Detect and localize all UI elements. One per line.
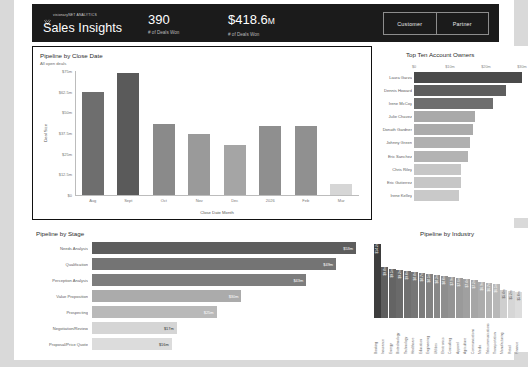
bar[interactable]: $16m: [92, 338, 172, 350]
bar[interactable]: [414, 137, 470, 148]
bar[interactable]: $17m: [92, 322, 177, 334]
bar[interactable]: [414, 190, 459, 201]
bar[interactable]: [414, 124, 473, 135]
bar[interactable]: [224, 145, 246, 195]
bar[interactable]: $7.2m: [471, 280, 478, 318]
list-item[interactable]: Laura Garza: [382, 72, 522, 83]
bar-track: [414, 164, 522, 175]
bar[interactable]: $9.8m: [381, 267, 388, 318]
bar[interactable]: $5.0m: [515, 292, 522, 318]
bar-column[interactable]: $8.5m: [426, 244, 433, 318]
bar[interactable]: $9.0m: [404, 271, 411, 318]
list-item[interactable]: Eric Sanchez: [382, 151, 522, 162]
bar-column[interactable]: $7.6m: [456, 244, 463, 318]
bar[interactable]: [414, 85, 506, 96]
bar-track: [414, 124, 522, 135]
bar-column[interactable]: $8.3m: [434, 244, 441, 318]
bar[interactable]: [414, 72, 522, 83]
bar-column[interactable]: $6.7m: [486, 244, 493, 318]
bar[interactable]: [330, 184, 352, 195]
bar[interactable]: $8.7m: [419, 273, 426, 318]
bar-column[interactable]: Mar: [324, 71, 360, 195]
bar-value-label: $7.4m: [465, 279, 469, 288]
toggle-partner-button[interactable]: Partner: [436, 13, 489, 34]
bar-column[interactable]: Aug: [75, 71, 111, 195]
list-item[interactable]: Julie Chavez: [382, 111, 522, 122]
bar[interactable]: [259, 126, 281, 195]
bar-column[interactable]: $5.2m: [508, 244, 515, 318]
list-item[interactable]: Irene McCoy: [382, 98, 522, 109]
bar-column[interactable]: $6.5m: [493, 244, 500, 318]
bar-value-label: $53m: [343, 246, 353, 251]
list-item[interactable]: Qualification$49m: [34, 258, 356, 270]
bar[interactable]: [117, 73, 139, 195]
bar[interactable]: $5.2m: [508, 291, 515, 318]
list-item[interactable]: Johnny Green: [382, 137, 522, 148]
bar[interactable]: $25m: [92, 306, 217, 318]
bar[interactable]: $14.2m: [374, 244, 381, 318]
bar[interactable]: $53m: [92, 242, 356, 254]
bar[interactable]: $8.5m: [426, 274, 433, 318]
bar-column[interactable]: $6.9m: [478, 244, 485, 318]
bar[interactable]: $6.7m: [486, 283, 493, 318]
bar[interactable]: $7.4m: [463, 279, 470, 318]
bar[interactable]: $7.6m: [456, 278, 463, 318]
list-item[interactable]: Irene Kelley: [382, 190, 522, 201]
bar[interactable]: [153, 124, 175, 195]
list-item[interactable]: Eric Gutierrez: [382, 177, 522, 188]
bar[interactable]: $8.3m: [434, 275, 441, 318]
bar-column[interactable]: Feb: [288, 71, 324, 195]
bar[interactable]: [414, 177, 461, 188]
kpi-deals-won-count: 390 # of Deals Won: [148, 12, 179, 35]
bar-column[interactable]: $9.2m: [396, 244, 403, 318]
bar[interactable]: $30m: [92, 290, 241, 302]
toggle-customer-button[interactable]: Customer: [384, 13, 436, 34]
bar[interactable]: [414, 98, 493, 109]
bar-column[interactable]: Oct: [146, 71, 182, 195]
bar-column[interactable]: $9.5m: [389, 244, 396, 318]
bar-column[interactable]: $7.9m: [448, 244, 455, 318]
bar[interactable]: $9.5m: [389, 269, 396, 319]
list-item[interactable]: Proposal/Price Quote$16m: [34, 338, 356, 350]
audience-toggle[interactable]: Customer Partner: [383, 12, 489, 35]
bar[interactable]: [414, 164, 461, 175]
list-item[interactable]: Perception Analysis$43m: [34, 274, 356, 286]
list-item[interactable]: Dennis Howard: [382, 85, 522, 96]
bar[interactable]: $5.4m: [500, 290, 507, 318]
bar-column[interactable]: Sept: [111, 71, 147, 195]
list-item[interactable]: Value Proposition$30m: [34, 290, 356, 302]
bar[interactable]: $43m: [92, 274, 306, 286]
bar-column[interactable]: $14.2m: [374, 244, 381, 318]
bar[interactable]: $8.0m: [441, 276, 448, 318]
bar[interactable]: $49m: [92, 258, 336, 270]
bar[interactable]: $7.9m: [448, 277, 455, 318]
bar-column[interactable]: $5.4m: [500, 244, 507, 318]
list-item[interactable]: Chris Riley: [382, 164, 522, 175]
bar-column[interactable]: $7.4m: [463, 244, 470, 318]
bar[interactable]: $9.2m: [396, 270, 403, 318]
list-item[interactable]: Donath Gardner: [382, 124, 522, 135]
list-item[interactable]: Negotiation/Review$17m: [34, 322, 356, 334]
dashboard-header: visionaryNET ANALYTICS Sales Insights 39…: [32, 4, 499, 42]
bar-column[interactable]: 2026: [253, 71, 289, 195]
bar[interactable]: $8.8m: [411, 272, 418, 318]
bar[interactable]: $6.9m: [478, 282, 485, 318]
list-item[interactable]: Needs Analysis$53m: [34, 242, 356, 254]
bar-column[interactable]: Nov: [182, 71, 218, 195]
bar-column[interactable]: $8.8m: [411, 244, 418, 318]
bar[interactable]: $6.5m: [493, 284, 500, 318]
bar-column[interactable]: $8.0m: [441, 244, 448, 318]
bar[interactable]: [82, 92, 104, 195]
list-item[interactable]: Prospecting$25m: [34, 306, 356, 318]
bar-column[interactable]: $9.8m: [381, 244, 388, 318]
bar-column[interactable]: $5.0m: [515, 244, 522, 318]
bar-column[interactable]: $7.2m: [471, 244, 478, 318]
bar[interactable]: [414, 111, 475, 122]
bar[interactable]: [295, 126, 317, 195]
bar-column[interactable]: Dec: [217, 71, 253, 195]
bar[interactable]: [414, 151, 468, 162]
bar[interactable]: [188, 134, 210, 195]
bar-column[interactable]: $8.7m: [419, 244, 426, 318]
bar-column[interactable]: $9.0m: [404, 244, 411, 318]
bar-track: $53m: [92, 242, 356, 254]
